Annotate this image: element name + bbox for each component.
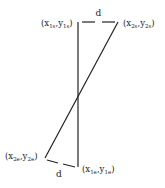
bottom-distance-marker: d (47, 160, 75, 179)
top-distance-marker: d (82, 8, 115, 22)
label-segment1-end: (x1e,y1e) (82, 164, 115, 175)
label-segment1-start: (x1s,y1s) (41, 18, 73, 29)
segment-2-line (45, 22, 118, 158)
label-segment2-start: (x2s,y2s) (123, 18, 155, 29)
bottom-distance-label: d (56, 169, 62, 179)
top-distance-label: d (96, 8, 102, 18)
segment-distance-diagram: d d (x1s,y1s) (x2s,y2s) (x2e,y2e) (x1e,y… (0, 0, 165, 188)
label-segment2-end: (x2e,y2e) (5, 151, 38, 162)
